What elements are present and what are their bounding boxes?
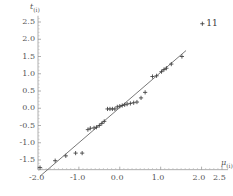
- x-axis-tick-label: 2.5: [213, 173, 226, 182]
- x-axis-tick-label: 2.0: [193, 173, 206, 182]
- x-axis-tick-label: 0.0: [111, 173, 124, 182]
- y-axis-tick-label: 1.0: [14, 69, 35, 78]
- y-axis-tick-label: 1.5: [14, 52, 35, 61]
- data-point-marker: [123, 103, 127, 107]
- data-point-marker: [38, 165, 42, 169]
- data-point-marker: [64, 154, 68, 158]
- plot-canvas: [0, 0, 233, 196]
- annotation-marker: [200, 22, 204, 26]
- y-axis-tick-label: 0.5: [14, 86, 35, 95]
- data-point-marker: [74, 151, 78, 155]
- x-axis-tick-label: -1.0: [70, 173, 85, 182]
- data-point-marker: [143, 90, 147, 94]
- x-axis-title-subscript: (i): [226, 161, 233, 168]
- scatter-plot-figure: -2.0-1.00.01.02.02.5-1.5-1.0-0.50.00.51.…: [0, 0, 233, 196]
- y-axis-tick-label: 2.5: [14, 17, 35, 26]
- annotation-label: 11: [206, 18, 217, 28]
- data-point-marker: [118, 104, 122, 108]
- y-axis-title-subscript: (i): [33, 6, 40, 13]
- x-axis-tick-label: -2.0: [29, 173, 44, 182]
- data-point-group: [38, 54, 184, 169]
- data-point-marker: [132, 101, 136, 105]
- data-point-marker: [80, 151, 84, 155]
- x-axis-tick-label: 1.0: [152, 173, 165, 182]
- y-axis-tick-label: -0.5: [14, 121, 35, 130]
- data-point-marker: [169, 62, 173, 66]
- data-point-marker: [135, 100, 139, 104]
- y-axis-tick-label: -1.0: [14, 138, 35, 147]
- x-axis-title: μ(i): [221, 158, 233, 169]
- y-axis-tick-label: -1.5: [14, 155, 35, 164]
- y-axis-tick-label: 2.0: [14, 34, 35, 43]
- data-point-marker: [92, 126, 96, 130]
- data-point-marker: [128, 101, 132, 105]
- y-axis-tick-label: 0.0: [14, 103, 35, 112]
- data-point-marker: [139, 96, 143, 100]
- y-axis-title: t(i): [30, 2, 40, 13]
